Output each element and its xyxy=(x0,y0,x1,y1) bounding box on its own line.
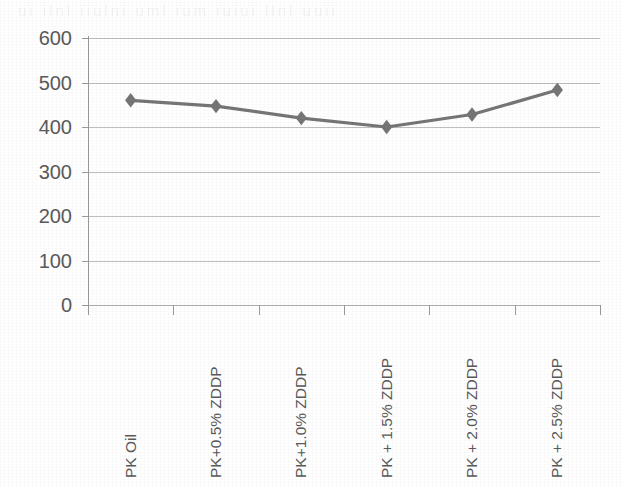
y-axis-label-500: 500 xyxy=(8,73,72,93)
y-tick-500 xyxy=(82,83,89,84)
x-tick-4 xyxy=(429,305,430,315)
gridline-100 xyxy=(88,261,600,262)
x-axis-category-label: PK+1.0% ZDDP xyxy=(292,318,310,478)
y-axis-label-100: 100 xyxy=(8,251,72,271)
gridline-200 xyxy=(88,216,600,217)
x-tick-6 xyxy=(600,305,601,315)
gridline-400 xyxy=(88,127,600,128)
gridline-300 xyxy=(88,172,600,173)
x-tick-3 xyxy=(344,305,345,315)
x-axis-category-label: PK + 1.5% ZDDP xyxy=(378,318,396,478)
y-tick-200 xyxy=(82,216,89,217)
x-axis-category-label: PK Oil xyxy=(122,318,140,478)
gridline-600 xyxy=(88,38,600,39)
line-chart: 6005004003002001000 PK OilPK+0.5% ZDDPPK… xyxy=(0,0,622,486)
y-tick-100 xyxy=(82,261,89,262)
x-tick-2 xyxy=(259,305,260,315)
y-axis-label-400: 400 xyxy=(8,117,72,137)
y-tick-300 xyxy=(82,172,89,173)
y-axis-label-600: 600 xyxy=(8,28,72,48)
x-label-slot-3: PK + 1.5% ZDDP xyxy=(387,0,388,1)
x-label-slot-1: PK+0.5% ZDDP xyxy=(216,0,217,1)
x-label-slot-5: PK + 2.5% ZDDP xyxy=(557,0,558,1)
x-axis-category-label: PK+0.5% ZDDP xyxy=(207,318,225,478)
x-tick-0 xyxy=(88,305,89,315)
y-tick-400 xyxy=(82,127,89,128)
y-axis-label-300: 300 xyxy=(8,162,72,182)
y-axis-label-200: 200 xyxy=(8,206,72,226)
x-tick-5 xyxy=(515,305,516,315)
gridline-500 xyxy=(88,83,600,84)
x-axis-category-label: PK + 2.5% ZDDP xyxy=(548,318,566,478)
x-label-slot-4: PK + 2.0% ZDDP xyxy=(472,0,473,1)
y-tick-600 xyxy=(82,38,89,39)
y-axis-label-0: 0 xyxy=(8,295,72,315)
x-label-slot-0: PK Oil xyxy=(131,0,132,1)
x-axis-category-label: PK + 2.0% ZDDP xyxy=(463,318,481,478)
x-label-slot-2: PK+1.0% ZDDP xyxy=(301,0,302,1)
plot-area xyxy=(88,38,600,305)
x-tick-1 xyxy=(173,305,174,315)
